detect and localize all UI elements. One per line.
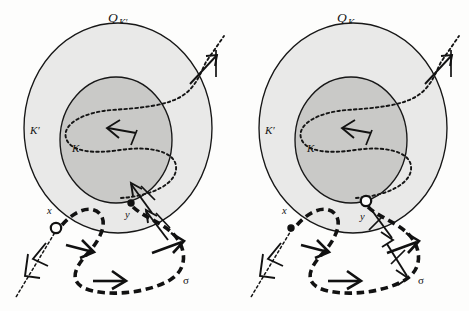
panel-left-outer-label: K′	[29, 124, 40, 136]
panel-right-sigma-label: σ	[418, 274, 424, 286]
panel-left-sigma-label: σ	[183, 274, 189, 286]
panel-right-point-x-label: x	[281, 205, 287, 216]
panel-right: Q K K′ K	[251, 10, 459, 297]
figure-root: noiger eht ni stniop noiger eht ni stnio…	[0, 0, 469, 311]
panel-right-inner-region	[295, 77, 407, 203]
panel-left: Q K′ K′ K	[16, 10, 224, 297]
panel-right-point-x	[288, 225, 294, 231]
panel-right-regions	[259, 23, 447, 233]
panel-right-outer-label: K′	[264, 124, 275, 136]
panel-left-outgoing-ray	[16, 229, 57, 297]
panel-left-inner-region	[60, 77, 172, 203]
panel-right-point-y-label: y	[359, 211, 365, 222]
panel-left-ray-chevron-2	[25, 254, 40, 278]
panel-left-point-x	[51, 223, 61, 233]
panel-right-outgoing-ray	[251, 229, 292, 297]
panel-left-point-x-label: x	[46, 205, 52, 216]
panel-right-ray-chevron-2	[260, 254, 275, 278]
panel-left-regions	[24, 23, 212, 233]
panel-right-point-y	[361, 196, 371, 206]
panel-left-point-y	[128, 200, 134, 206]
panel-left-point-y-label: y	[124, 209, 130, 220]
diagram-canvas: noiger eht ni stniop noiger eht ni stnio…	[0, 0, 469, 311]
